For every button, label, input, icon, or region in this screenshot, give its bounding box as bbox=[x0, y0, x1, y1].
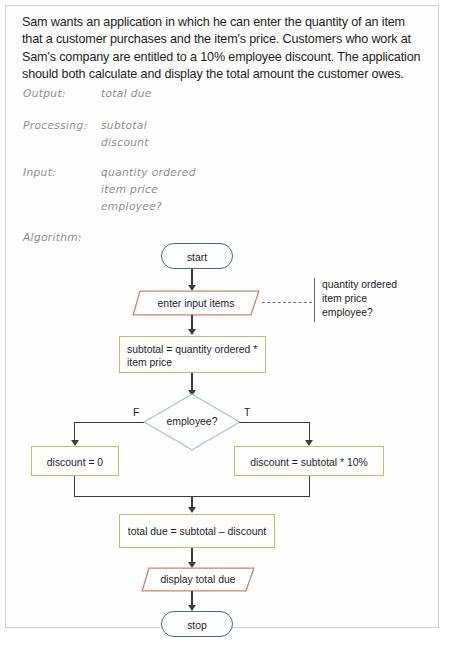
annotation-line-2: employee? bbox=[322, 306, 373, 320]
connector-merge-left-vertical bbox=[74, 476, 75, 497]
arrowhead-merge-to-total bbox=[188, 507, 196, 513]
input-value-2: employee? bbox=[101, 200, 162, 212]
connector-decision-false-horizontal bbox=[74, 422, 144, 423]
input-value-0: quantity ordered bbox=[101, 166, 196, 178]
flow-total-due-label: total due = subtotal – discount bbox=[119, 525, 275, 538]
processing-value-1: discount bbox=[101, 136, 149, 148]
processing-label: Processing: bbox=[23, 119, 87, 131]
annotation-line-0: quantity ordered bbox=[322, 278, 397, 292]
output-label: Output: bbox=[23, 87, 66, 99]
branch-label-true: T bbox=[244, 407, 250, 418]
arrowhead-input-to-subtotal bbox=[188, 329, 196, 335]
input-label: Input: bbox=[23, 166, 56, 178]
processing-value-0: subtotal bbox=[101, 119, 147, 131]
flow-input-label: enter input items bbox=[132, 297, 260, 310]
algorithm-label: Algorithm: bbox=[23, 231, 82, 243]
input-value-1: item price bbox=[101, 183, 158, 195]
flow-discount-true-label: discount = subtotal * 10% bbox=[234, 456, 384, 469]
flow-subtotal-label-line1: subtotal = quantity ordered * bbox=[127, 343, 257, 356]
annotation-dashed-line bbox=[262, 302, 312, 303]
connector-merge-right-vertical bbox=[309, 476, 310, 497]
flow-decision-label: employee? bbox=[143, 415, 241, 428]
annotation-vertical-bar bbox=[314, 278, 315, 322]
output-value-0: total due bbox=[101, 87, 152, 99]
flow-start-label: start bbox=[161, 251, 233, 264]
branch-label-false: F bbox=[133, 407, 139, 418]
flow-stop-label: stop bbox=[161, 619, 233, 632]
connector-decision-true-horizontal bbox=[239, 422, 310, 423]
annotation-line-1: item price bbox=[322, 292, 367, 306]
worksheet-page: Sam wants an application in which he can… bbox=[5, 5, 439, 628]
flow-discount-false-label: discount = 0 bbox=[31, 456, 119, 469]
flow-display-label: display total due bbox=[141, 573, 255, 586]
problem-statement: Sam wants an application in which he can… bbox=[22, 14, 426, 84]
flow-subtotal-label-line2: item price bbox=[127, 356, 172, 369]
